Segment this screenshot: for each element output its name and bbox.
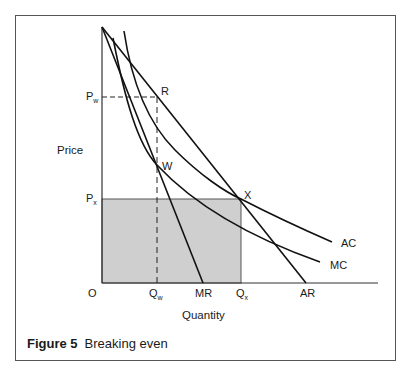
y-tick-pw: Pw xyxy=(86,90,98,107)
x-tick-qx: Qx xyxy=(236,287,248,304)
figure-title: Breaking even xyxy=(85,336,168,351)
breaking-even-chart xyxy=(0,0,413,380)
ac-label: AC xyxy=(341,237,356,249)
point-w-label: W xyxy=(162,160,172,172)
point-x-label: X xyxy=(244,189,251,201)
break-even-area xyxy=(102,199,241,283)
x-tick-ar: AR xyxy=(300,287,315,299)
x-tick-mr: MR xyxy=(195,287,212,299)
figure-caption: Figure 5Breaking even xyxy=(27,336,168,351)
x-axis-label: Quantity xyxy=(182,309,225,321)
x-tick-qw: Qw xyxy=(149,287,163,304)
y-tick-px: Px xyxy=(86,192,97,209)
origin-label: O xyxy=(88,287,97,299)
figure-number: Figure 5 xyxy=(27,336,78,351)
point-r-label: R xyxy=(161,85,169,97)
y-axis-label: Price xyxy=(57,144,83,156)
mc-label: MC xyxy=(330,259,347,271)
